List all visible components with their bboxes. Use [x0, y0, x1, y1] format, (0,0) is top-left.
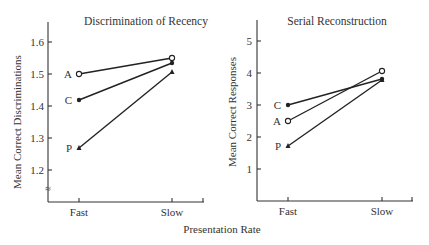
open-circle-marker-icon — [76, 71, 81, 76]
right-panel: Serial Reconstruction 5 4 3 2 1 Fast Slo… — [226, 15, 413, 217]
right-label-p: P — [275, 140, 281, 152]
left-xtick-slow: Slow — [161, 206, 184, 218]
left-chart-title: Discrimination of Recency — [84, 15, 208, 28]
left-y-ticks: 1.6 1.5 1.4 1.3 1.2 ≈ — [30, 36, 52, 194]
right-label-a: A — [273, 115, 281, 127]
left-y-axis-title: Mean Correct Discriminations — [11, 55, 23, 189]
figure: Discrimination of Recency 1.6 1.5 1.4 1.… — [0, 0, 429, 245]
right-x-ticks: Fast Slow — [279, 197, 412, 217]
left-ytick-1-3: 1.3 — [30, 132, 44, 144]
left-ytick-1-2: 1.2 — [30, 164, 44, 176]
open-circle-marker-icon — [285, 118, 290, 123]
open-circle-marker-icon — [169, 55, 174, 60]
right-xtick-slow: Slow — [371, 205, 394, 217]
filled-circle-marker-icon — [170, 61, 174, 65]
right-y-axis-title: Mean Correct Responses — [226, 57, 238, 167]
right-ytick-5: 5 — [247, 35, 253, 47]
right-label-c: C — [274, 99, 281, 111]
shared-x-axis-title: Presentation Rate — [183, 223, 260, 235]
right-ytick-1: 1 — [247, 163, 253, 175]
left-axis-break-icon: ≈ — [45, 183, 51, 194]
left-label-a: A — [64, 68, 72, 80]
left-ytick-1-4: 1.4 — [30, 100, 44, 112]
right-series-a: A — [273, 68, 385, 127]
left-label-c: C — [65, 94, 72, 106]
left-xtick-fast: Fast — [70, 206, 88, 218]
filled-circle-marker-icon — [286, 103, 290, 107]
filled-triangle-marker-icon — [170, 69, 175, 74]
right-xtick-fast: Fast — [279, 205, 297, 217]
filled-circle-marker-icon — [77, 98, 81, 102]
left-series-p: P — [66, 69, 175, 154]
right-series-c: C — [274, 77, 385, 111]
left-series-a: A — [64, 55, 175, 80]
left-x-ticks: Fast Slow — [70, 198, 203, 218]
left-ytick-1-5: 1.5 — [30, 68, 44, 80]
right-ytick-4: 4 — [247, 67, 253, 79]
right-ytick-2: 2 — [247, 131, 253, 143]
right-chart-title: Serial Reconstruction — [287, 15, 387, 27]
left-panel: Discrimination of Recency 1.6 1.5 1.4 1.… — [11, 15, 208, 218]
right-series-p: P — [275, 77, 385, 152]
left-ytick-1-6: 1.6 — [30, 36, 44, 48]
right-ytick-3: 3 — [247, 99, 253, 111]
right-y-ticks: 5 4 3 2 1 — [247, 35, 262, 175]
left-label-p: P — [66, 142, 72, 154]
open-circle-marker-icon — [379, 68, 384, 73]
